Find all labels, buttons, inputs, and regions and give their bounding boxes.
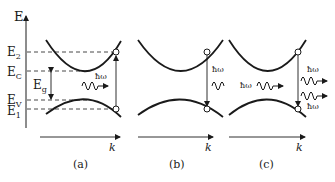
panel-caption: (a) bbox=[73, 158, 88, 171]
electron-state-lower bbox=[204, 106, 210, 112]
photon-wave-icon bbox=[212, 82, 224, 90]
label-E2: E2 bbox=[7, 45, 21, 61]
level-labels: E2 EC Eg EV E1 bbox=[7, 45, 47, 120]
photon-wave-icon bbox=[257, 82, 273, 90]
stimulated-photon-upper: ħω bbox=[301, 65, 327, 85]
photon-wave-icon bbox=[301, 92, 317, 100]
k-axis-label: k bbox=[296, 141, 303, 154]
band-diagram-figure: E E2 EC Eg EV E1 ħω k (a) bbox=[0, 0, 335, 182]
photon-label: ħω bbox=[212, 65, 224, 74]
emitted-photon: ħω bbox=[212, 65, 224, 90]
panel-caption: (b) bbox=[169, 158, 185, 171]
label-Eg: Eg bbox=[33, 78, 47, 94]
valence-band-curve bbox=[229, 99, 306, 117]
electron-state-upper bbox=[113, 49, 119, 55]
incident-photon: ħω bbox=[82, 72, 108, 90]
conduction-band-curve bbox=[138, 40, 223, 71]
panel-a: ħω k (a) bbox=[40, 40, 121, 171]
panel-b: ħω k (b) bbox=[138, 40, 224, 171]
electron-state-lower bbox=[295, 106, 301, 112]
photon-label: ħω bbox=[307, 65, 319, 74]
photon-wave-icon bbox=[82, 82, 98, 90]
stimulated-photon-lower: ħω bbox=[301, 92, 327, 111]
electron-state-lower bbox=[113, 106, 119, 112]
photon-wave-icon bbox=[301, 77, 317, 85]
k-axis-label: k bbox=[205, 141, 212, 154]
panel-caption: (c) bbox=[259, 158, 274, 171]
conduction-band-curve bbox=[46, 40, 121, 71]
photon-label: ħω bbox=[240, 81, 252, 90]
conduction-band-curve bbox=[229, 40, 306, 71]
label-EC: EC bbox=[7, 65, 22, 81]
incident-photon: ħω bbox=[240, 81, 283, 90]
k-axis-label: k bbox=[109, 141, 116, 154]
electron-state-upper bbox=[295, 49, 301, 55]
valence-band-curve bbox=[46, 99, 121, 117]
photon-label: ħω bbox=[307, 102, 319, 111]
panel-c: ħω ħω ħω k (c) bbox=[229, 40, 327, 171]
energy-axis-label: E bbox=[14, 9, 24, 24]
photon-label: ħω bbox=[95, 72, 107, 81]
electron-state-upper bbox=[204, 49, 210, 55]
